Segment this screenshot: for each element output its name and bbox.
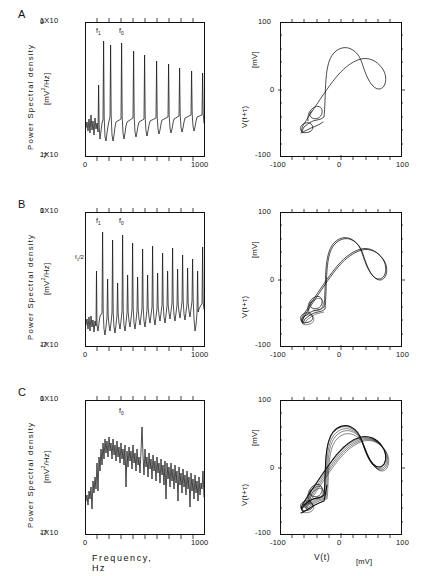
phase-curve-b — [281, 213, 401, 346]
spectrum-b-bottom-ticks — [85, 343, 206, 351]
spectrum-a-bottom-ticks — [85, 153, 206, 161]
spectrum-b-ytop-exp: 0 — [40, 206, 44, 215]
phase-b-xright-label: 100 — [396, 350, 409, 359]
panel-b: B 1X100 1X10-7 0 1000 Power Spectral den… — [0, 190, 433, 382]
spectrum-a-ytop-exp: 0 — [40, 17, 44, 26]
spectrum-c-ytop-exp: 0 — [40, 394, 44, 403]
spectrum-b-yunit: [mV2/Hz] — [40, 263, 51, 295]
phase-c-ytop-label: 100 — [258, 395, 271, 404]
panel-letter-a: A — [18, 8, 26, 20]
spectrum-a-yunit-b: /Hz] — [42, 73, 51, 88]
phase-a-ylabel: V(t+τ) — [240, 105, 249, 128]
phase-b-ybot-label: -100 — [255, 340, 271, 349]
phase-b-bottom-ticks — [280, 343, 403, 351]
phase-b-yunit: [mV] — [250, 241, 259, 258]
phase-a-xmid-label: 0 — [337, 160, 341, 169]
phase-c-xlabel: V(t) — [314, 552, 330, 562]
spectrum-b-xright-label: 1000 — [191, 350, 209, 359]
spectrum-c-yunit-a: [mV — [42, 469, 51, 483]
spectrum-a-top-ticks — [85, 16, 206, 24]
spectrum-b-yunit-exp: 2 — [40, 277, 46, 280]
spectrum-c-xlabel: Frequency, Hz — [92, 553, 152, 573]
spectrum-b-top-ticks — [85, 206, 206, 214]
spectrum-c-bottom-ticks — [85, 531, 206, 539]
spectrum-a-yunit-exp: 2 — [40, 87, 46, 90]
phase-c-xmid-label: 0 — [337, 538, 341, 547]
spectrum-c-ybot-exp: -7 — [40, 528, 47, 537]
phase-a-xright-label: 100 — [396, 160, 409, 169]
spectrum-b-yunit-a: [mV — [42, 281, 51, 295]
phase-a-right-ticks — [401, 22, 409, 158]
phase-a-yunit: [mV] — [250, 51, 259, 68]
phase-a-ybot-label: -100 — [255, 150, 271, 159]
phase-b-xmid-label: 0 — [337, 350, 341, 359]
phase-curve-a — [281, 23, 401, 156]
phase-c-ylabel: V(t+τ) — [240, 483, 249, 506]
spectrum-a-yunit: [mV2/Hz] — [40, 73, 51, 105]
phase-b-ytop-label: 100 — [258, 207, 271, 216]
phase-a-left-ticks — [274, 22, 282, 158]
spectrum-a-ybot-exp: -7 — [40, 151, 47, 160]
figure-root: A 1X100 1X10-7 0 1000 Power Spectral den… — [0, 0, 433, 576]
spectrum-curve-c — [86, 401, 204, 534]
spectrum-c-yunit-b: /Hz] — [42, 451, 51, 466]
phase-c-xright-label: 100 — [396, 538, 409, 547]
phase-c-ybot-label: -100 — [255, 528, 271, 537]
phase-a-ytop-label: 100 — [258, 17, 271, 26]
panel-a: A 1X100 1X10-7 0 1000 Power Spectral den… — [0, 0, 433, 192]
spectrum-c-xleft-label: 0 — [83, 538, 87, 547]
phase-c-bottom-ticks — [280, 531, 403, 539]
phase-b-xleft-label: -100 — [270, 350, 286, 359]
spectrum-b-xleft-label: 0 — [83, 350, 87, 359]
spectrum-a-xleft-label: 0 — [83, 160, 87, 169]
spectrum-curve-b — [86, 213, 204, 346]
spectrum-a-xright-label: 1000 — [191, 160, 209, 169]
spectrum-c-yunit: [mV2/Hz] — [40, 451, 51, 483]
phase-b-top-ticks — [280, 206, 403, 214]
spectrum-b-ylabel: Power Spectral density — [26, 234, 35, 340]
spectrum-c-top-ticks — [85, 394, 206, 402]
spectrum-a-yunit-a: [mV — [42, 91, 51, 105]
spectrum-c-xright-label: 1000 — [191, 538, 209, 547]
phase-c-top-ticks — [280, 394, 403, 402]
phase-curve-c — [281, 401, 401, 534]
phase-a-top-ticks — [280, 16, 403, 24]
spectrum-curve-a — [86, 23, 204, 156]
spectrum-b-ybot-exp: -7 — [40, 340, 47, 349]
panel-c: C 1X100 1X10-7 0 1000 Power Spectral den… — [0, 378, 433, 570]
panel-letter-b: B — [18, 198, 26, 210]
phase-a-bottom-ticks — [280, 153, 403, 161]
phase-b-right-ticks — [401, 212, 409, 348]
phase-c-yunit: [mV] — [250, 429, 259, 446]
spectrum-a-ylabel: Power Spectral density — [26, 44, 35, 150]
spectrum-b-yunit-b: /Hz] — [42, 263, 51, 278]
peak-label-f1half-b: f1/2 — [75, 254, 84, 262]
spectrum-c-ylabel: Power Spectral density — [26, 422, 35, 528]
phase-c-left-ticks — [274, 400, 282, 536]
panel-letter-c: C — [18, 386, 26, 398]
phase-c-xunit: [mV] — [356, 557, 372, 566]
phase-c-right-ticks — [401, 400, 409, 536]
phase-b-left-ticks — [274, 212, 282, 348]
phase-b-ylabel: V(t+τ) — [240, 295, 249, 318]
spectrum-c-yunit-exp: 2 — [40, 465, 46, 468]
phase-c-xleft-label: -100 — [270, 538, 286, 547]
phase-a-xleft-label: -100 — [270, 160, 286, 169]
